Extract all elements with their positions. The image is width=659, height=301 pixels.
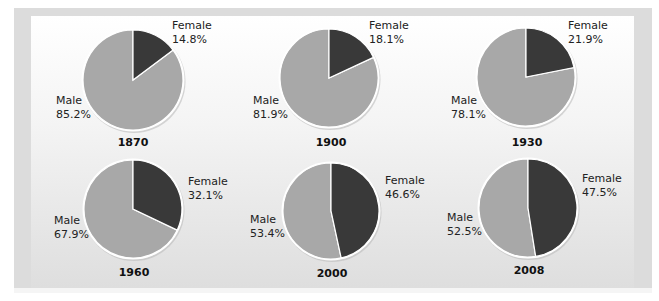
male-slice — [479, 159, 536, 257]
female-value: 14.8% — [172, 33, 207, 46]
year-label: 2000 — [317, 267, 348, 280]
female-slice — [331, 163, 379, 258]
male-value: 81.9% — [253, 108, 288, 121]
male-value: 85.2% — [56, 108, 91, 121]
year-label: 1960 — [119, 266, 150, 279]
female-value: 18.1% — [369, 33, 404, 46]
pie-charts-grid: Female14.8%Male85.2%1870Female18.1%Male8… — [0, 0, 659, 301]
male-value: 52.5% — [447, 225, 482, 238]
female-value: 46.6% — [385, 188, 420, 201]
female-slice — [528, 159, 577, 256]
female-value: 21.9% — [568, 33, 603, 46]
pie-chart-2000: Female46.6%Male53.4%2000 — [250, 162, 425, 281]
year-label: 1930 — [512, 136, 543, 149]
male-label: Male — [56, 94, 82, 107]
male-value: 78.1% — [451, 108, 486, 121]
female-label: Female — [568, 19, 608, 32]
pie-chart-1900: Female18.1%Male81.9%1900 — [253, 19, 409, 149]
female-value: 32.1% — [188, 189, 223, 202]
female-label: Female — [385, 174, 425, 187]
pie-chart-2008: Female47.5%Male52.5%2008 — [447, 158, 622, 278]
female-label: Female — [582, 172, 622, 185]
male-label: Male — [253, 94, 279, 107]
pie-chart-1960: Female32.1%Male67.9%1960 — [54, 159, 228, 280]
female-label: Female — [188, 175, 228, 188]
male-value: 67.9% — [54, 228, 89, 241]
female-label: Female — [172, 19, 212, 32]
male-label: Male — [447, 211, 473, 224]
pie-chart-1930: Female21.9%Male78.1%1930 — [451, 19, 608, 149]
year-label: 2008 — [514, 264, 545, 277]
male-label: Male — [250, 213, 276, 226]
pie-chart-1870: Female14.8%Male85.2%1870 — [56, 19, 212, 149]
male-label: Male — [54, 214, 80, 227]
male-value: 53.4% — [250, 227, 285, 240]
male-label: Male — [451, 94, 477, 107]
female-value: 47.5% — [582, 186, 617, 199]
year-label: 1870 — [118, 136, 149, 149]
female-label: Female — [369, 19, 409, 32]
year-label: 1900 — [316, 136, 347, 149]
